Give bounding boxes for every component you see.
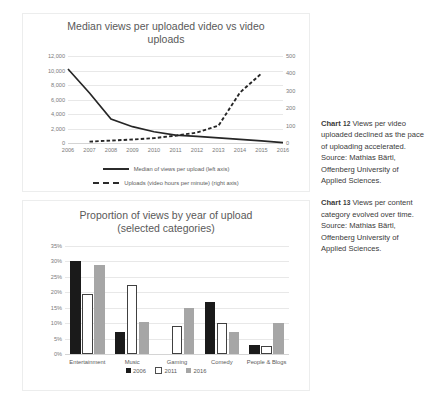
x-axis-tick: 2016 — [271, 147, 295, 153]
legend-item-2006: 2006 — [126, 368, 146, 374]
y-axis-tick: 35% — [51, 243, 62, 249]
line-chart-title-line1: Median views per uploaded video vs video — [67, 20, 264, 32]
y-axis-tick: 15% — [51, 305, 62, 311]
legend-label: 2016 — [193, 368, 206, 374]
bar-2011-comedy — [217, 323, 228, 354]
legend-item-2016: 2016 — [186, 368, 206, 374]
x-axis-line — [65, 354, 289, 355]
bar-chart-panel: Proportion of views by year of upload (s… — [22, 200, 310, 391]
bar-2011-people-blogs — [261, 346, 272, 354]
legend-label: 2006 — [133, 368, 146, 374]
x-axis-tick: 2011 — [164, 147, 188, 153]
x-axis-tick: 2007 — [78, 147, 102, 153]
right-axis-tick: 100 — [286, 123, 295, 129]
bar-2006-entertainment — [70, 261, 81, 354]
x-axis-tick: 2009 — [121, 147, 145, 153]
line-chart-panel: Median views per uploaded video vs video… — [22, 13, 310, 192]
gridline — [65, 246, 289, 247]
bar-chart-title: Proportion of views by year of upload (s… — [23, 209, 309, 234]
category-label: Music — [110, 359, 155, 366]
x-axis-tick: 2006 — [56, 147, 80, 153]
bar-2016-comedy — [229, 332, 240, 354]
bar-2016-music — [139, 322, 150, 354]
left-axis-tick: 4,000 — [51, 111, 65, 117]
caption-number: 13 — [343, 199, 350, 206]
line-chart-series-svg — [68, 56, 283, 143]
category-label: Gaming — [155, 359, 200, 366]
left-axis-tick: 8,000 — [51, 82, 65, 88]
category-label: Entertainment — [65, 359, 110, 366]
right-axis-tick: 400 — [286, 70, 295, 76]
bar-chart-plot-area: 35%30%25%20%15%10%5%0% — [65, 246, 289, 354]
line-chart-legend-uploads: Uploads (video hours per minute) (right … — [23, 180, 309, 186]
bar-2016-entertainment — [94, 265, 105, 354]
bar-2011-gaming — [172, 326, 183, 354]
left-axis-tick: 10,000 — [48, 68, 65, 74]
legend-solid-line-icon — [103, 168, 129, 170]
x-axis-tick: 2013 — [207, 147, 231, 153]
left-axis-tick: 6,000 — [51, 97, 65, 103]
x-axis-tick: 2012 — [185, 147, 209, 153]
right-axis-tick: 0 — [286, 140, 289, 146]
legend-swatch-icon — [126, 368, 131, 373]
caption-chart-13: Chart 13 Views per content category evol… — [321, 197, 425, 254]
bar-2006-comedy — [205, 302, 216, 354]
bar-2016-people-blogs — [273, 323, 284, 354]
y-axis-tick: 5% — [54, 336, 62, 342]
x-axis-tick: 2010 — [142, 147, 166, 153]
x-axis-tick: 2008 — [99, 147, 123, 153]
caption-column: Chart 12 Views per video uploaded declin… — [321, 118, 425, 265]
bar-chart-title-line2: (selected categories) — [117, 222, 214, 234]
bar-2016-gaming — [184, 308, 195, 354]
legend-label-median: Median of views per upload (left axis) — [134, 166, 230, 172]
series-median-views-line — [68, 69, 283, 143]
legend-item-2011: 2011 — [155, 367, 177, 374]
category-label: People & Blogs — [244, 359, 289, 366]
x-axis-line — [68, 143, 283, 144]
bar-2011-music — [127, 285, 138, 354]
y-axis-tick: 20% — [51, 289, 62, 295]
left-axis-tick: 0 — [62, 140, 65, 146]
caption-label: Chart — [321, 198, 341, 207]
caption-chart-12: Chart 12 Views per video uploaded declin… — [321, 118, 425, 186]
category-label: Comedy — [199, 359, 244, 366]
y-axis-tick: 0% — [54, 351, 62, 357]
gridline — [65, 261, 289, 262]
legend-label: 2011 — [165, 368, 177, 374]
line-chart-title-line2: uploads — [148, 33, 185, 45]
caption-text: Views per video uploaded declined as the… — [321, 119, 424, 185]
bar-chart-legend: 200620112016 — [23, 367, 309, 374]
line-chart-legend-median: Median of views per upload (left axis) — [23, 166, 309, 172]
series-uploads-line — [90, 73, 262, 141]
legend-dashed-line-icon — [93, 182, 119, 184]
y-axis-tick: 10% — [51, 320, 62, 326]
right-axis-tick: 300 — [286, 88, 295, 94]
x-axis-tick: 2015 — [250, 147, 274, 153]
legend-swatch-icon — [186, 368, 191, 373]
y-axis-tick: 30% — [51, 258, 62, 264]
bar-2006-music — [115, 332, 126, 354]
bar-2011-entertainment — [82, 294, 93, 354]
line-chart-title: Median views per uploaded video vs video… — [23, 20, 309, 45]
left-axis-tick: 12,000 — [48, 53, 65, 59]
bar-chart-title-line1: Proportion of views by year of upload — [80, 209, 253, 221]
y-axis-tick: 25% — [51, 274, 62, 280]
caption-label: Chart — [321, 119, 341, 128]
bar-2006-people-blogs — [249, 345, 260, 354]
legend-swatch-icon — [155, 367, 162, 374]
x-axis-tick: 2014 — [228, 147, 252, 153]
legend-label-uploads: Uploads (video hours per minute) (right … — [124, 180, 238, 186]
right-axis-tick: 200 — [286, 105, 295, 111]
right-axis-tick: 500 — [286, 53, 295, 59]
caption-number: 12 — [343, 120, 350, 127]
left-axis-tick: 2,000 — [51, 126, 65, 132]
line-chart-plot-area: 12,000 10,000 8,000 6,000 4,000 2,000 0 … — [68, 56, 283, 143]
